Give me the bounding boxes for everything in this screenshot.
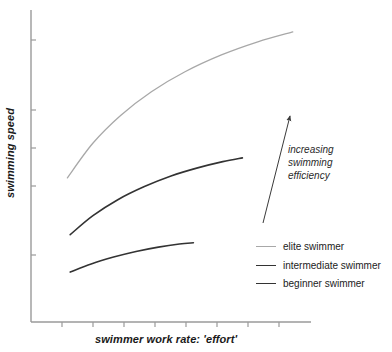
series-line-beginner-swimmer bbox=[70, 243, 193, 272]
legend-label-elite: elite swimmer bbox=[283, 241, 344, 252]
legend-label-intermediate: intermediate swimmer bbox=[283, 260, 381, 271]
series-line-intermediate-swimmer bbox=[70, 158, 242, 235]
chart-figure: swimming speed swimmer work rate: 'effor… bbox=[0, 0, 392, 352]
annotation-line-1: increasing bbox=[288, 143, 334, 156]
legend-item-beginner-swimmer[interactable]: beginner swimmer bbox=[256, 276, 365, 290]
annotation-increasing-swimming-efficiency: increasing swimming efficiency bbox=[288, 143, 334, 182]
chart-series-lines bbox=[67, 32, 292, 272]
legend-line-swatch-elite bbox=[256, 246, 276, 247]
legend-line-swatch-beginner bbox=[256, 283, 276, 284]
x-axis-label: swimmer work rate: 'effort' bbox=[95, 333, 237, 345]
annotation-line-3: efficiency bbox=[288, 169, 334, 182]
increasing-efficiency-arrow bbox=[263, 116, 290, 223]
legend-label-beginner: beginner swimmer bbox=[283, 278, 365, 289]
legend-item-elite-swimmer[interactable]: elite swimmer bbox=[256, 239, 344, 253]
legend-line-swatch-intermediate bbox=[256, 265, 276, 266]
annotation-line-2: swimming bbox=[288, 156, 334, 169]
legend-item-intermediate-swimmer[interactable]: intermediate swimmer bbox=[256, 258, 381, 272]
y-axis-label: swimming speed bbox=[4, 108, 16, 198]
arrow-shaft bbox=[263, 116, 290, 223]
series-line-elite-swimmer bbox=[67, 32, 292, 178]
